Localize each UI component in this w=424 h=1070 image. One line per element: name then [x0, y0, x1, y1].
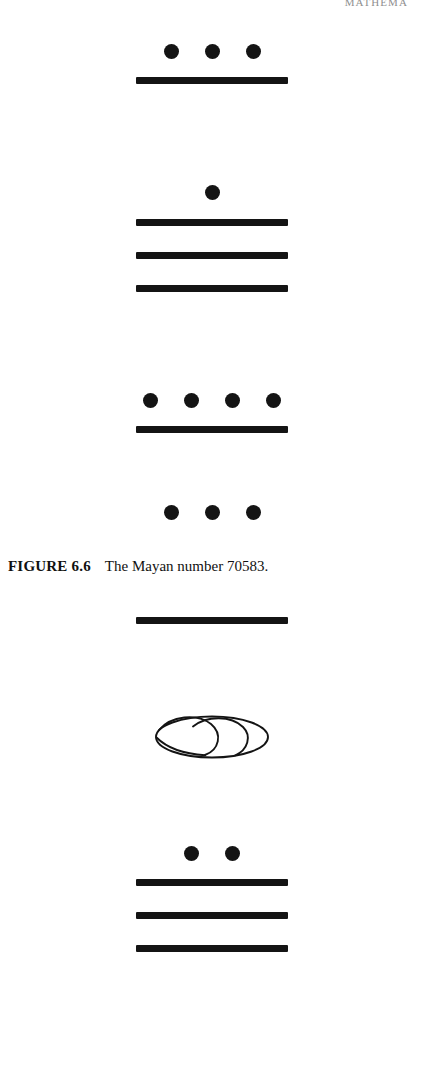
mayan-dot [184, 393, 199, 408]
mayan-lower-digit-group-1 [0, 617, 424, 624]
mayan-digit-group-3 [0, 393, 424, 433]
mayan-dot [205, 185, 220, 200]
mayan-digit-group-4 [0, 505, 424, 520]
figure-caption-text: The Mayan number 70583. [105, 558, 268, 574]
mayan-dot [164, 44, 179, 59]
mayan-digit-group-2 [0, 185, 424, 292]
mayan-bar [136, 252, 288, 259]
mayan-dot [266, 393, 281, 408]
dot-row [143, 393, 281, 408]
figure-caption: FIGURE 6.6The Mayan number 70583. [8, 558, 416, 575]
mayan-dot [225, 393, 240, 408]
mayan-dot [184, 846, 199, 861]
mayan-bar [136, 879, 288, 886]
mayan-bar [136, 426, 288, 433]
figure-caption-label: FIGURE 6.6 [8, 558, 91, 574]
mayan-dot [143, 393, 158, 408]
mayan-bar [136, 912, 288, 919]
dot-row [164, 44, 261, 59]
scanned-page: MATHEMA [0, 0, 424, 1070]
mayan-dot [205, 505, 220, 520]
mayan-bar [136, 285, 288, 292]
mayan-dot [246, 44, 261, 59]
mayan-bar [136, 219, 288, 226]
mayan-dot [225, 846, 240, 861]
mayan-dot [205, 44, 220, 59]
dot-row [164, 505, 261, 520]
mayan-bar [136, 77, 288, 84]
running-head: MATHEMA [345, 0, 408, 8]
mayan-lower-digit-group-2 [0, 714, 424, 760]
mayan-bar [136, 617, 288, 624]
mayan-bar [136, 945, 288, 952]
dot-row [184, 846, 240, 861]
dot-row [205, 185, 220, 200]
mayan-shell-zero-icon [153, 714, 271, 760]
mayan-dot [164, 505, 179, 520]
mayan-lower-digit-group-3 [0, 846, 424, 952]
mayan-digit-group-1 [0, 44, 424, 84]
mayan-dot [246, 505, 261, 520]
